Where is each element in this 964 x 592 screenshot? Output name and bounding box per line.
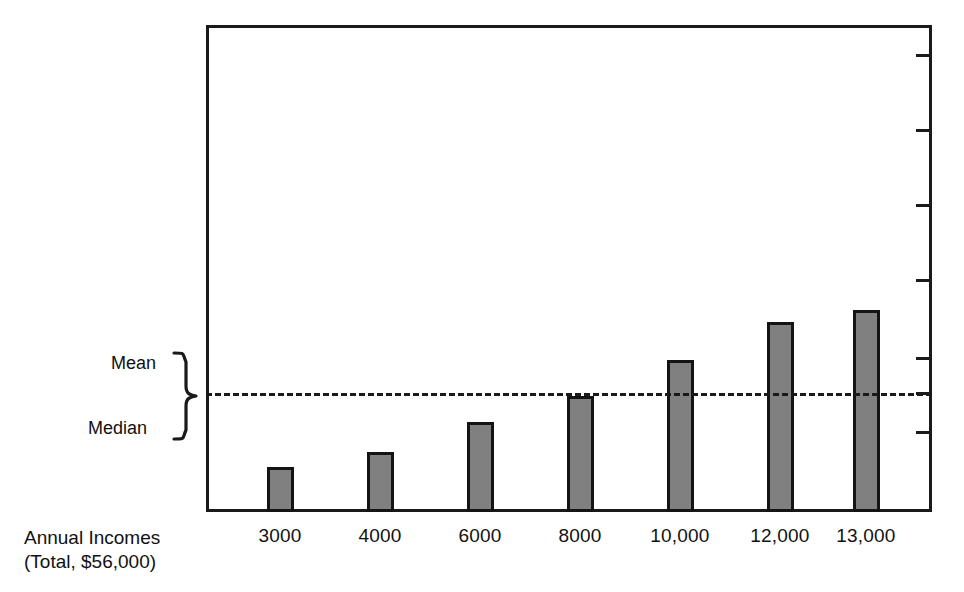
bar-4000[interactable] — [367, 452, 394, 512]
bar-12000[interactable] — [767, 322, 794, 512]
mean-label: Mean — [111, 352, 156, 374]
bar-13000[interactable] — [853, 310, 880, 512]
bar-8000[interactable] — [567, 396, 594, 512]
y-axis-tick-0 — [916, 54, 931, 57]
median-label: Median — [88, 417, 147, 439]
bar-chart: 300040006000800010,00012,00013,000 Mean … — [0, 0, 964, 592]
curly-brace-icon — [172, 348, 206, 444]
bar-10000[interactable] — [667, 360, 694, 512]
mean-median-reference-line — [206, 393, 932, 396]
bar-3000[interactable] — [267, 467, 294, 512]
x-axis-label-13000: 13,000 — [806, 524, 926, 547]
bar-6000[interactable] — [467, 422, 494, 512]
x-axis-caption-line1: Annual Incomes — [24, 526, 160, 550]
y-axis-tick-2 — [916, 204, 931, 207]
y-axis-tick-1 — [916, 129, 931, 132]
x-axis-caption-line2: (Total, $56,000) — [24, 550, 160, 574]
x-axis-caption: Annual Incomes (Total, $56,000) — [24, 526, 160, 574]
y-axis-tick-6 — [916, 431, 931, 434]
y-axis-tick-3 — [916, 279, 931, 282]
y-axis-tick-4 — [916, 357, 931, 360]
